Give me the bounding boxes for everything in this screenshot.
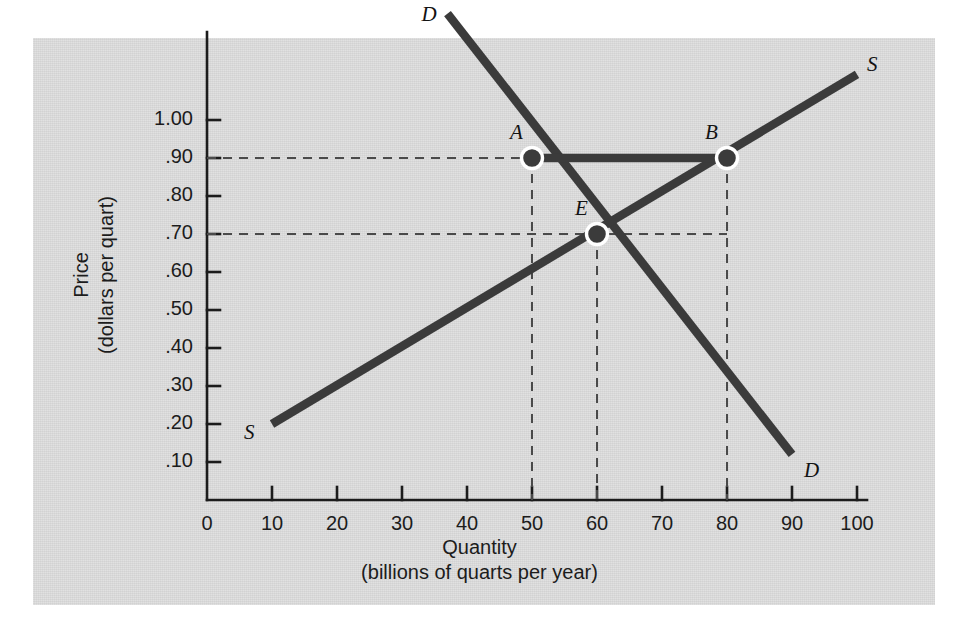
- x-axis-tick-label: 20: [307, 512, 367, 535]
- curve-label-demand: D: [422, 2, 437, 27]
- curve-label-demand: D: [804, 458, 819, 483]
- y-axis-tick-label: .80: [131, 183, 193, 206]
- x-axis-tick-label: 70: [632, 512, 692, 535]
- y-axis-tick-label: .60: [131, 259, 193, 282]
- x-axis-tick-label: 50: [502, 512, 562, 535]
- chart-figure: .10.20.30.40.50.60.70.80.901.00010203040…: [0, 0, 959, 624]
- x-axis-tick-label: 10: [242, 512, 302, 535]
- x-axis-tick-label: 100: [827, 512, 887, 535]
- point-label-e: E: [575, 196, 588, 221]
- point-label-a: A: [510, 120, 523, 145]
- x-axis-tick-label: 60: [567, 512, 627, 535]
- y-axis-tick-label: .10: [131, 449, 193, 472]
- x-axis-title: Quantity (billions of quarts per year): [0, 535, 959, 585]
- x-axis-tick-label: 80: [697, 512, 757, 535]
- y-axis-tick-label: .30: [131, 373, 193, 396]
- y-axis-tick-label: .20: [131, 411, 193, 434]
- x-axis-tick-label: 30: [372, 512, 432, 535]
- x-axis-tick-label: 0: [177, 512, 237, 535]
- point-label-b: B: [705, 120, 718, 145]
- y-axis-tick-label: .90: [131, 145, 193, 168]
- y-axis-tick-label: .50: [131, 297, 193, 320]
- x-axis-tick-label: 40: [437, 512, 497, 535]
- y-axis-tick-label: .70: [131, 221, 193, 244]
- y-axis-tick-label: .40: [131, 335, 193, 358]
- curve-label-supply: S: [867, 52, 878, 77]
- curve-label-supply: S: [244, 420, 255, 445]
- x-axis-tick-label: 90: [762, 512, 822, 535]
- y-axis-title: Price (dollars per quart): [69, 165, 119, 385]
- y-axis-tick-label: 1.00: [131, 107, 193, 130]
